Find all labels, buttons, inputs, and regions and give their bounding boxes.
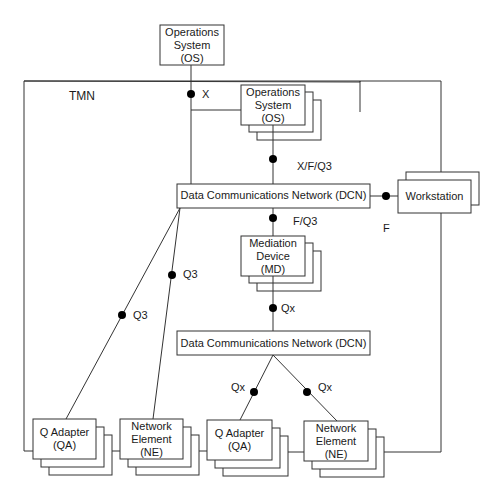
qa-left-label: Q Adapter (QA) [33,426,96,452]
os-internal-label: Operations System (OS) [241,86,305,125]
interface-dot-f [382,192,390,200]
ne-right-label: Network Element (NE) [304,422,368,461]
interface-label-x: X [202,88,209,101]
interface-dot-x [187,90,195,98]
ne-left-line3: (NE) [120,446,183,459]
ne-right-line3: (NE) [304,448,368,461]
qa-left-line2: (QA) [33,439,96,452]
ne-left-line1: Network [120,420,183,433]
interface-dot-q3-qa [118,311,126,319]
workstation-label: Workstation [398,190,471,203]
interface-label-f: F [383,222,390,235]
interface-label-q3-qa: Q3 [133,309,148,322]
interface-label-qx-md: Qx [281,302,295,315]
interface-dot-q3-ne [168,271,176,279]
dcn-upper-label: Data Communications Network (DCN) [177,189,370,202]
interface-dot-qx-ne [303,388,311,396]
ne-left-line2: Element [120,433,183,446]
os-external-line1: Operations [160,26,224,39]
dcn-lower-label: Data Communications Network (DCN) [177,337,370,350]
interface-dot-qx-qa [250,388,258,396]
qa-right-line1: Q Adapter [207,427,272,440]
os-internal-line1: Operations [241,86,305,99]
md-label: Mediation Device (MD) [241,237,305,276]
qa-right-label: Q Adapter (QA) [207,427,272,453]
qa-right-line2: (QA) [207,440,272,453]
ne-right-line2: Element [304,435,368,448]
ne-right-line1: Network [304,422,368,435]
interface-label-q3-ne: Q3 [183,268,198,281]
interface-dot-fq3 [269,214,277,222]
ne-left-label: Network Element (NE) [120,420,183,459]
os-external-line3: (OS) [160,52,224,65]
os-external-line2: System [160,39,224,52]
interface-dot-qx-md [269,304,277,312]
os-internal-line3: (OS) [241,112,305,125]
interface-label-qx-qa: Qx [231,381,245,394]
os-internal-line2: System [241,99,305,112]
qa-left-line1: Q Adapter [33,426,96,439]
md-line3: (MD) [241,263,305,276]
md-line1: Mediation [241,237,305,250]
os-external-label: Operations System (OS) [160,26,224,65]
interface-dot-xfq3 [269,155,277,163]
tmn-label: TMN [69,90,95,103]
interface-label-qx-ne: Qx [318,381,332,394]
interface-label-xfq3: X/F/Q3 [297,160,332,173]
interface-label-fq3: F/Q3 [293,215,317,228]
md-line2: Device [241,250,305,263]
